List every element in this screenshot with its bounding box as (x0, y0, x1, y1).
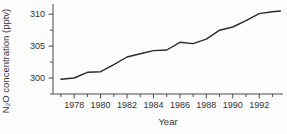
plot-area: 3003053101978198019821984198619881990199… (30, 4, 283, 110)
x-tick-label: 1978 (64, 100, 84, 110)
x-tick-label: 1982 (117, 100, 137, 110)
x-tick-label: 1990 (223, 100, 243, 110)
y-tick-label: 300 (30, 73, 45, 83)
y-axis-title: N₂O concentration (pptv) (0, 9, 11, 114)
x-tick-label: 1980 (91, 100, 111, 110)
x-tick-label: 1984 (143, 100, 163, 110)
y-tick-label: 305 (30, 41, 45, 51)
x-axis-title: Year (158, 116, 177, 127)
x-tick-label: 1986 (170, 100, 190, 110)
n2o-data-line (61, 11, 281, 79)
x-tick-label: 1988 (196, 100, 216, 110)
x-tick-label: 1992 (249, 100, 269, 110)
chart-canvas: N₂O concentration (pptv) 300305310197819… (0, 0, 287, 134)
y-tick-label: 310 (30, 9, 45, 19)
n2o-concentration-chart: N₂O concentration (pptv) 300305310197819… (0, 0, 287, 134)
